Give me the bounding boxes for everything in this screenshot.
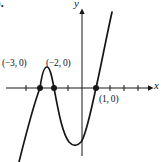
point-label-minus3-0: (−3, 0) xyxy=(2,59,27,69)
graph-canvas xyxy=(0,0,161,162)
root-dot xyxy=(37,85,43,91)
y-axis-label: y xyxy=(74,0,79,9)
item-label: b. xyxy=(0,0,4,9)
x-axis-label: x xyxy=(154,80,159,91)
point-label-minus2-0: (−2, 0) xyxy=(46,59,71,69)
x-axis-arrowhead-icon xyxy=(148,85,154,90)
y-axis-arrowhead-icon xyxy=(79,9,84,15)
point-label-1-0: (1, 0) xyxy=(99,95,118,105)
root-dot xyxy=(93,85,99,91)
cubic-graph-svg xyxy=(0,0,161,162)
root-dot xyxy=(51,85,57,91)
